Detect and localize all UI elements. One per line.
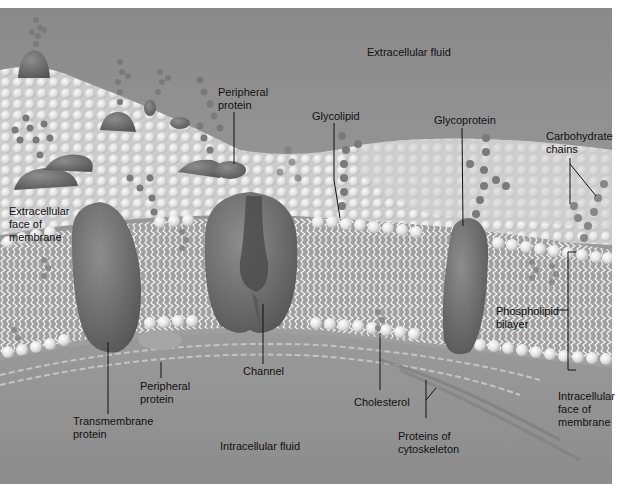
label-carbohydrate-chains: Carbohydrate chains <box>546 130 613 156</box>
label-peripheral-protein-top: Peripheral protein <box>218 86 268 112</box>
label-proteins-of-cytoskeleton: Proteins of cytoskeleton <box>398 430 459 456</box>
label-cholesterol: Cholesterol <box>354 396 410 409</box>
label-phospholipid-bilayer: Phospholipid bilayer <box>496 305 559 331</box>
label-glycolipid: Glycolipid <box>312 110 360 123</box>
label-transmembrane-protein: Transmembrane protein <box>73 415 153 441</box>
label-peripheral-protein-bottom: Peripheral protein <box>140 380 190 406</box>
cell-membrane-diagram: Extracellular fluid Peripheral protein G… <box>0 0 620 490</box>
label-channel: Channel <box>243 365 284 378</box>
label-extracellular-face: Extracellular face of membrane <box>9 205 70 244</box>
label-intracellular-face: Intracellular face of membrane <box>558 390 615 429</box>
label-extracellular-fluid: Extracellular fluid <box>367 46 451 59</box>
label-intracellular-fluid: Intracellular fluid <box>220 440 300 453</box>
label-glycoprotein: Glycoprotein <box>434 114 496 127</box>
